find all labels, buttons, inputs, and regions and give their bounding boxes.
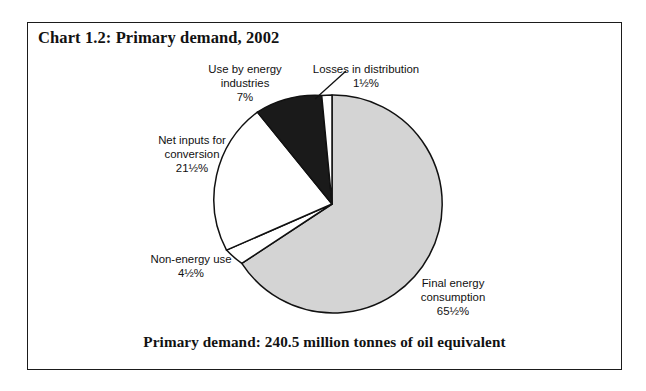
- pie-label-line2: industries: [221, 77, 270, 89]
- pie-label-line1: Losses in distribution: [313, 63, 419, 75]
- chart-caption: Primary demand: 240.5 million tonnes of …: [28, 333, 621, 351]
- pie-label-line1: Final energy: [422, 277, 485, 289]
- pie-label-value: 21½%: [176, 162, 208, 174]
- chart-frame: Chart 1.2: Primary demand, 2002 Use by e…: [27, 22, 622, 370]
- pie-label-final-energy-consumption: Final energy consumption 65½%: [397, 276, 509, 319]
- pie-label-net-inputs-for-conversion: Net inputs for conversion 21½%: [140, 133, 244, 176]
- pie-label-line1: Use by energy: [208, 63, 281, 75]
- pie-label-value: 7%: [237, 91, 253, 103]
- pie-label-line2: conversion: [164, 148, 219, 160]
- pie-label-line1: Net inputs for: [158, 134, 226, 146]
- pie-label-value: 65½%: [437, 305, 469, 317]
- pie-label-use-by-energy-industries: Use by energy industries 7%: [193, 62, 297, 105]
- pie-label-losses-in-distribution: Losses in distribution 1½%: [305, 62, 427, 90]
- pie-label-line1: Non-energy use: [150, 253, 231, 265]
- pie-label-non-energy-use: Non-energy use 4½%: [138, 252, 244, 280]
- pie-label-value: 4½%: [178, 267, 204, 279]
- pie-label-value: 1½%: [353, 77, 379, 89]
- pie-label-line2: consumption: [421, 291, 486, 303]
